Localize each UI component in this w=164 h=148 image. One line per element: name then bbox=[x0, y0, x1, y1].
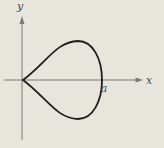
curve-diagram: y x a bbox=[0, 0, 164, 148]
figure-canvas: y x a bbox=[0, 0, 164, 148]
figure-background bbox=[0, 0, 164, 148]
x-intercept-label: a bbox=[101, 82, 108, 95]
x-axis-label: x bbox=[146, 74, 153, 87]
y-axis-label: y bbox=[16, 0, 24, 13]
